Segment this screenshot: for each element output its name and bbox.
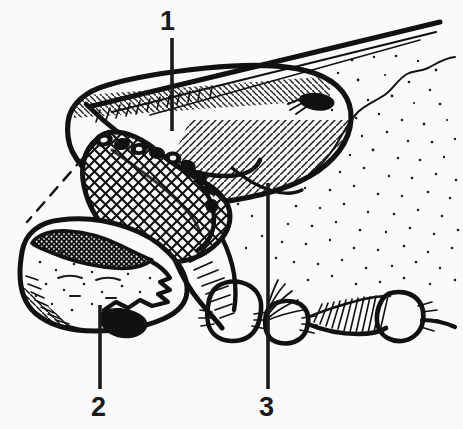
anatomical-illustration bbox=[0, 0, 463, 429]
callout-label-3: 3 bbox=[259, 394, 274, 421]
callout-label-2: 2 bbox=[91, 394, 106, 421]
callout-label-1: 1 bbox=[160, 8, 175, 35]
figure-root: 1 2 3 bbox=[0, 0, 463, 429]
